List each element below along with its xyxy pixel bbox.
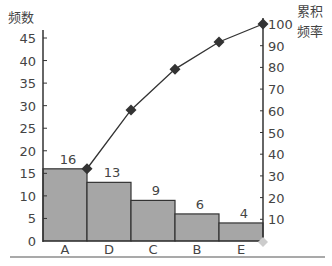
x-tick-label: C	[148, 242, 157, 257]
right-tick-label: 70	[268, 82, 285, 97]
left-axis-title: 频数	[8, 10, 34, 25]
right-tick-label: 10	[268, 212, 285, 227]
x-tick-label: E	[237, 242, 245, 257]
right-tick-label: 100	[268, 17, 293, 32]
right-tick-label: 40	[268, 147, 285, 162]
bar-D	[87, 182, 131, 241]
right-axis-ticks: 102030405060708090100	[260, 17, 293, 227]
x-tick-label: B	[193, 242, 202, 257]
left-tick-label: 35	[19, 76, 36, 91]
bars	[43, 169, 263, 241]
left-tick-label: 5	[28, 211, 36, 226]
bar-A	[43, 169, 87, 241]
bar-value-label: 6	[196, 197, 204, 212]
diamond-marker	[214, 37, 225, 48]
x-tick-label: A	[61, 242, 70, 257]
x-tick-label: D	[104, 242, 114, 257]
bar-value-label: 4	[240, 206, 248, 221]
cumulative-line	[82, 19, 269, 175]
left-tick-label: 15	[19, 166, 36, 181]
bar-C	[131, 200, 175, 241]
right-axis-title-line1: 累积	[297, 4, 323, 19]
right-tick-label: 30	[268, 169, 285, 184]
right-tick-label: 20	[268, 191, 285, 206]
right-tick-label: 60	[268, 104, 285, 119]
bar-B	[175, 214, 219, 241]
right-axis-title-line2: 频率	[297, 24, 323, 39]
left-tick-label: 25	[19, 121, 36, 136]
left-tick-label: 20	[19, 144, 36, 159]
bar-E	[219, 223, 263, 241]
right-tick-label: 80	[268, 60, 285, 75]
diamond-marker	[258, 19, 269, 30]
left-tick-label: 45	[19, 31, 36, 46]
cumulative-polyline	[87, 24, 263, 169]
bar-value-label: 13	[104, 165, 121, 180]
right-tick-label: 90	[268, 39, 285, 54]
left-tick-label: 0	[28, 234, 36, 249]
bar-value-label: 9	[152, 183, 160, 198]
left-tick-label: 40	[19, 54, 36, 69]
left-tick-label: 30	[19, 99, 36, 114]
bar-value-label: 16	[60, 152, 77, 167]
right-tick-label: 50	[268, 126, 285, 141]
left-tick-label: 10	[19, 189, 36, 204]
pareto-chart: 1613964 ADCBE 051015202530354045 1020304…	[0, 0, 332, 266]
x-axis-labels: ADCBE	[61, 242, 246, 257]
